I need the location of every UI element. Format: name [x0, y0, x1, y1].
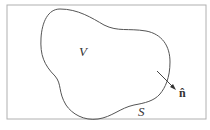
normal-label: n̂: [179, 86, 186, 101]
surface-label: S: [138, 104, 145, 120]
diagram-canvas: [0, 0, 210, 130]
frame: [7, 5, 206, 119]
volume-label: V: [79, 44, 87, 60]
surface-boundary: [41, 9, 170, 119]
